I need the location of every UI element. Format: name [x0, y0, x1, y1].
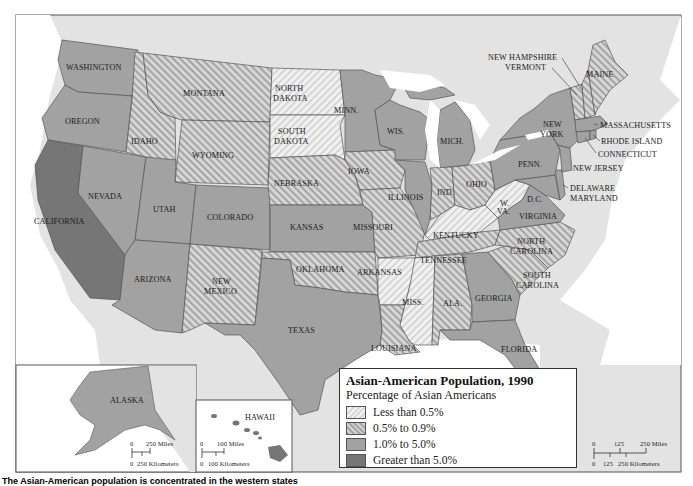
label-utah: UTAH — [153, 205, 175, 214]
label-alabama: ALA. — [443, 299, 462, 308]
label-south-dakota-2: DAKOTA — [274, 137, 309, 146]
label-minnesota: MINN. — [334, 106, 358, 115]
label-maryland: MARYLAND — [570, 194, 618, 203]
label-colorado: COLORADO — [207, 213, 253, 222]
label-oklahoma: OKLAHOMA — [296, 265, 345, 274]
svg-text:250 Miles: 250 Miles — [146, 440, 173, 447]
label-vermont: VERMONT — [505, 63, 546, 72]
label-arizona: ARIZONA — [134, 275, 172, 284]
label-new-york-1: NEW — [543, 120, 562, 129]
legend-label: Greater than 5.0% — [373, 454, 457, 466]
legend-item-greater-than-5-0: Greater than 5.0% — [346, 452, 570, 468]
label-ohio: OHIO — [466, 180, 487, 189]
label-virginia: VIRGINIA — [519, 212, 557, 221]
label-indiana: IND. — [437, 188, 454, 197]
label-louisiana: LOUISIANA — [371, 344, 416, 353]
legend-item-1-0-to-5-0: 1.0% to 5.0% — [346, 436, 570, 452]
label-new-hampshire: NEW HAMPSHIRE — [488, 53, 557, 62]
label-missouri: MISSOURI — [353, 223, 393, 232]
label-dc: D.C. — [527, 195, 543, 204]
dark-gray-swatch-icon — [346, 454, 366, 467]
label-south-carolina-2: CAROLINA — [516, 281, 559, 290]
svg-text:125: 125 — [614, 440, 624, 447]
label-new-mexico-1: NEW — [212, 277, 231, 286]
label-pennsylvania: PENN. — [518, 160, 542, 169]
label-new-jersey: NEW JERSEY — [573, 164, 624, 173]
label-north-carolina-2: CAROLINA — [510, 247, 553, 256]
label-north-dakota-2: DAKOTA — [273, 94, 308, 103]
label-kansas: KANSAS — [290, 223, 324, 232]
label-kentucky: KENTUCKY — [433, 231, 479, 240]
label-maine: MAINE — [586, 70, 613, 79]
legend-label: 1.0% to 5.0% — [373, 438, 436, 450]
label-montana: MONTANA — [183, 89, 225, 98]
label-delaware: DELAWARE — [570, 184, 615, 193]
label-nebraska: NEBRASKA — [274, 179, 319, 188]
legend-subtitle: Percentage of Asian Americans — [346, 388, 570, 402]
svg-text:0: 0 — [592, 440, 595, 447]
label-massachusetts: MASSACHUSETTS — [600, 121, 671, 130]
light-hatch-swatch-icon — [346, 406, 366, 419]
svg-text:0: 0 — [200, 440, 203, 447]
label-new-york-2: YORK — [540, 130, 564, 139]
label-georgia: GEORGIA — [475, 294, 513, 303]
svg-text:0: 0 — [130, 440, 133, 447]
label-california: CALIFORNIA — [34, 217, 85, 226]
label-illinois: ILLINOIS — [388, 193, 424, 202]
label-south-carolina-1: SOUTH — [523, 271, 551, 280]
legend-item-less-than-0-5: Less than 0.5% — [346, 404, 570, 420]
svg-text:250 Kilometers: 250 Kilometers — [618, 460, 660, 467]
label-texas: TEXAS — [288, 326, 315, 335]
legend-label: 0.5% to 0.9% — [373, 422, 436, 434]
svg-text:250 Miles: 250 Miles — [640, 440, 667, 447]
label-michigan: MICH. — [440, 137, 464, 146]
label-tennessee: TENNESSEE — [420, 256, 467, 265]
svg-text:100 Kilometers: 100 Kilometers — [208, 460, 250, 467]
label-north-carolina-1: NORTH — [517, 237, 545, 246]
svg-text:0: 0 — [200, 460, 203, 467]
svg-text:100 Miles: 100 Miles — [217, 440, 244, 447]
label-new-mexico-2: MEXICO — [204, 287, 237, 296]
map-legend: Asian-American Population, 1990 Percenta… — [339, 368, 577, 468]
svg-text:125: 125 — [603, 460, 613, 467]
label-mississippi: MISS. — [402, 298, 424, 307]
dark-hatch-swatch-icon — [346, 422, 366, 435]
label-west-virginia-2: VA. — [497, 207, 510, 216]
legend-title: Asian-American Population, 1990 — [346, 373, 570, 388]
label-arkansas: ARKANSAS — [357, 268, 402, 277]
label-south-dakota-1: SOUTH — [278, 127, 306, 136]
label-iowa: IOWA — [348, 167, 370, 176]
figure-caption: The Asian-American population is concent… — [2, 476, 298, 486]
label-rhode-island: RHODE ISLAND — [601, 137, 662, 146]
svg-text:250 Kilometers: 250 Kilometers — [137, 460, 179, 467]
label-washington: WASHINGTON — [66, 63, 121, 72]
label-nevada: NEVADA — [88, 192, 122, 201]
medium-gray-swatch-icon — [346, 438, 366, 451]
legend-item-0-5-to-0-9: 0.5% to 0.9% — [346, 420, 570, 436]
label-alaska: ALASKA — [110, 396, 144, 405]
label-connecticut: CONNECTICUT — [598, 150, 657, 159]
label-idaho: IDAHO — [131, 137, 158, 146]
label-florida: FLORIDA — [501, 345, 537, 354]
label-hawaii: HAWAII — [245, 413, 275, 422]
label-wyoming: WYOMING — [192, 151, 234, 160]
svg-text:0: 0 — [130, 460, 133, 467]
svg-text:0: 0 — [592, 460, 595, 467]
label-oregon: OREGON — [65, 117, 100, 126]
label-north-dakota-1: NORTH — [275, 84, 303, 93]
label-wisconsin: WIS. — [387, 127, 404, 136]
legend-label: Less than 0.5% — [373, 406, 444, 418]
